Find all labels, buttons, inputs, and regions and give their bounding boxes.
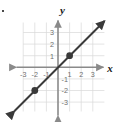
x-tick-label-neg2: -2 bbox=[32, 70, 38, 79]
point-neg2-neg2 bbox=[31, 87, 38, 94]
x-axis-label: x bbox=[106, 62, 113, 74]
graph-canvas: -3 -2 -1 1 2 3 3 2 1 -1 -2 -3 x y bbox=[0, 0, 120, 122]
y-tick-label-neg2: -2 bbox=[62, 86, 68, 95]
corner-artifact-speck bbox=[2, 10, 4, 12]
coordinate-plane-figure: -3 -2 -1 1 2 3 3 2 1 -1 -2 -3 x y bbox=[0, 0, 120, 122]
y-tick-label-pos3: 3 bbox=[50, 28, 54, 37]
y-tick-label-pos2: 2 bbox=[50, 40, 54, 49]
y-tick-label-neg1: -1 bbox=[62, 75, 68, 84]
x-tick-label-neg1: -1 bbox=[43, 70, 49, 79]
function-line-group bbox=[15, 21, 105, 111]
y-tick-label-neg3: -3 bbox=[62, 98, 68, 107]
axis-names: x y bbox=[58, 4, 113, 74]
x-tick-label-pos1: 1 bbox=[68, 70, 72, 79]
y-tick-label-pos1: 1 bbox=[50, 52, 54, 61]
x-tick-label-pos3: 3 bbox=[91, 70, 95, 79]
x-tick-label-pos2: 2 bbox=[79, 70, 83, 79]
line-y-equals-x bbox=[15, 21, 105, 111]
y-axis-label: y bbox=[58, 4, 65, 16]
point-1-1 bbox=[66, 52, 73, 59]
x-tick-label-neg3: -3 bbox=[20, 70, 26, 79]
